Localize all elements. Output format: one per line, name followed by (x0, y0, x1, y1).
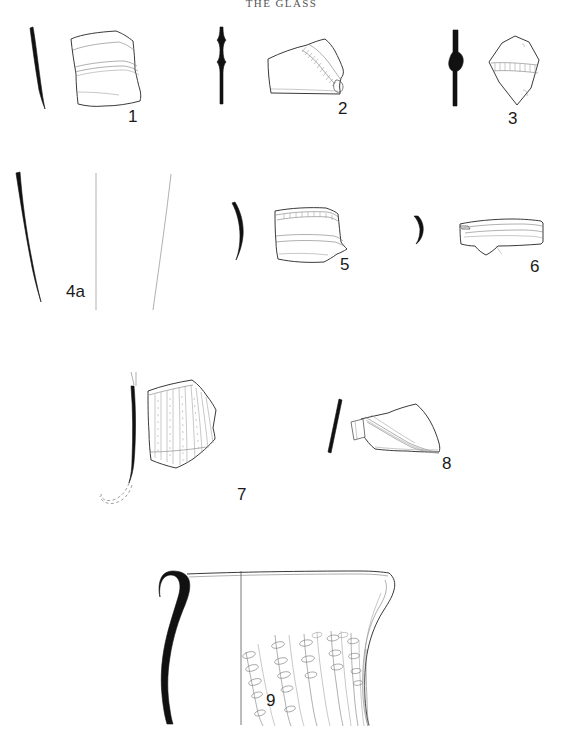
figure-7-sherd-outline (148, 380, 216, 468)
figure-7-vertical-ribs (155, 385, 213, 465)
figure-9-diagonal-ribs-secondary (258, 631, 364, 726)
figure-2-profile-section (217, 27, 226, 104)
figure-7-profile-reconstruction (101, 483, 129, 501)
figure-8-number: 8 (442, 455, 451, 472)
figure-2-trail-outer (308, 44, 341, 80)
figure-4a-number: 4a (66, 283, 85, 300)
figure-3-drawing (445, 22, 555, 127)
figure-2-drawing (210, 22, 380, 122)
figure-5-trail-upper-a (276, 212, 338, 217)
figure-4a: 4a (8, 168, 198, 318)
figure-5: 5 (228, 198, 368, 278)
figure-7: 7 (95, 368, 265, 513)
figure-4a-outline-outer (153, 174, 171, 310)
figure-2-trail-stipple (302, 47, 336, 86)
figure-6-line-a (462, 224, 542, 228)
figure-3-surface-mark-top (522, 44, 524, 47)
figure-5-number: 5 (340, 256, 349, 273)
figure-1-number: 1 (128, 108, 137, 125)
figure-8-trail-inner (371, 415, 415, 443)
figure-9-number: 9 (266, 692, 275, 709)
figure-6-profile-section (414, 216, 423, 244)
figure-5-trail-upper-b (277, 217, 339, 222)
figure-1-break-line (77, 92, 119, 95)
figure-1: 1 (20, 22, 180, 122)
illustration-plate: THE GLASS 1 (0, 0, 563, 730)
figure-7-profile-section (129, 386, 136, 483)
figure-2-number: 2 (338, 100, 347, 117)
figure-1-trail-middle-b (75, 66, 138, 72)
figure-5-trail-middle-b (276, 241, 344, 247)
page-title: THE GLASS (0, 0, 563, 7)
figure-1-sherd-outline (71, 31, 141, 106)
figure-3-profile-section (449, 30, 464, 106)
figure-2-trail-inner (302, 50, 335, 84)
figure-8: 8 (325, 395, 465, 475)
figure-6-number: 6 (530, 258, 539, 275)
figure-1-trail-upper (73, 42, 134, 50)
figure-1-trail-middle-c (76, 70, 139, 76)
figure-6: 6 (408, 212, 558, 272)
figure-2-break-line (271, 89, 338, 91)
figure-7-profile-reconstruction-2 (100, 485, 132, 504)
figure-5-trail-stipple (284, 212, 332, 220)
figure-3-number: 3 (508, 110, 517, 127)
figure-9-rim-line (187, 571, 389, 574)
figure-9-diagonal-ribs (246, 631, 369, 726)
figure-8-trail-terminal (351, 419, 365, 440)
figure-1-trail-middle-a (75, 61, 137, 67)
figure-3: 3 (445, 22, 555, 127)
figure-8-trail-edge-mid (366, 420, 439, 453)
figure-5-profile-section (232, 202, 243, 260)
figure-1-drawing (20, 22, 180, 122)
figure-3-trail-stipple (495, 63, 535, 73)
figure-5-trail-middle-a (276, 235, 343, 242)
figure-8-profile-section (328, 399, 342, 453)
figure-9-rim-line-inner (189, 574, 388, 577)
figure-9-profile-section (159, 571, 190, 724)
figure-5-break-line (279, 253, 328, 255)
figure-7-surface-ticks (158, 396, 199, 462)
figure-9: 9 (145, 565, 445, 730)
figure-1-profile-section (30, 27, 45, 109)
figure-6-line-c (464, 236, 543, 238)
figure-4a-drawing (8, 168, 198, 318)
figure-6-line-b (465, 230, 543, 233)
figure-7-profile-top-hairline (131, 372, 134, 385)
figure-9-drawing (145, 565, 445, 730)
figure-7-number: 7 (237, 486, 246, 503)
figure-2: 2 (210, 22, 380, 122)
figure-6-edge-mark (496, 246, 502, 254)
figure-7-break-top (149, 385, 193, 395)
figure-8-sherd-outline (361, 404, 440, 452)
figure-2-trail-terminal (334, 80, 343, 92)
figure-4a-profile-section (16, 172, 41, 302)
